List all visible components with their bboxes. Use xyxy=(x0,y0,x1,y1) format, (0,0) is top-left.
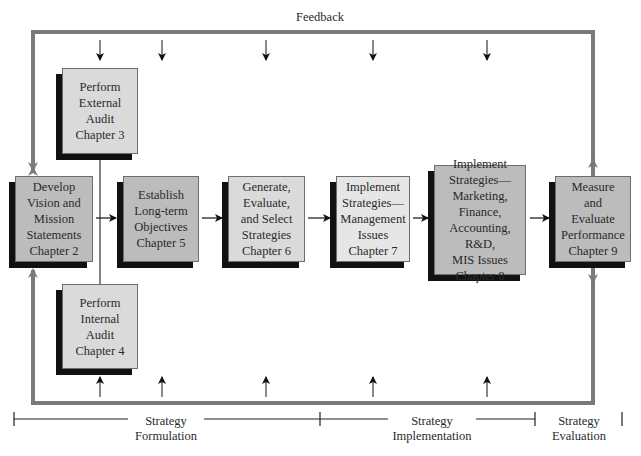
box-vision-mission[interactable]: Develop Vision and Mission Statements Ch… xyxy=(15,176,93,262)
feedback-label: Feedback xyxy=(280,10,360,25)
box-external-audit[interactable]: Perform External Audit Chapter 3 xyxy=(62,68,138,154)
box-internal-audit[interactable]: Perform Internal Audit Chapter 4 xyxy=(62,284,138,369)
box-implement-functional[interactable]: Implement Strategies— Marketing, Finance… xyxy=(434,165,526,275)
box-label: Implement Strategies— Marketing, Finance… xyxy=(437,156,523,284)
box-label: Generate, Evaluate, and Select Strategie… xyxy=(241,179,293,259)
box-label: Perform Internal Audit Chapter 4 xyxy=(76,295,125,359)
box-label: Establish Long-term Objectives Chapter 5 xyxy=(134,187,187,251)
box-label: Develop Vision and Mission Statements Ch… xyxy=(27,179,82,259)
phase-implementation-label: Strategy Implementation xyxy=(388,414,476,444)
phase-timeline xyxy=(14,412,622,426)
box-label: Perform External Audit Chapter 3 xyxy=(76,79,125,143)
up-arrows xyxy=(100,377,487,397)
box-label: Measure and Evaluate Performance Chapter… xyxy=(561,179,625,259)
down-arrows xyxy=(100,40,487,60)
phase-evaluation-label: Strategy Evaluation xyxy=(545,414,613,444)
box-implement-management[interactable]: Implement Strategies— Management Issues … xyxy=(336,176,410,262)
box-label: Implement Strategies— Management Issues … xyxy=(340,179,405,259)
phase-formulation-label: Strategy Formulation xyxy=(128,414,204,444)
box-objectives[interactable]: Establish Long-term Objectives Chapter 5 xyxy=(123,176,199,262)
box-generate-strategies[interactable]: Generate, Evaluate, and Select Strategie… xyxy=(228,176,305,262)
box-measure-evaluate[interactable]: Measure and Evaluate Performance Chapter… xyxy=(555,176,631,262)
